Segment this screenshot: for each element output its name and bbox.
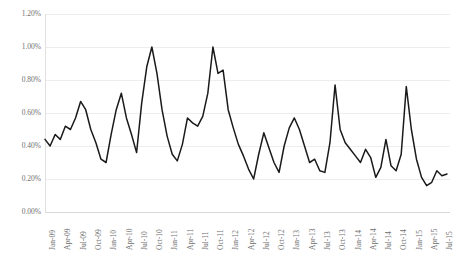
y-tick-label: 0.00% <box>22 207 41 216</box>
x-tick-label: Oct-11 <box>216 229 225 250</box>
gridlines <box>45 14 450 212</box>
x-tick-label: Jan-14 <box>354 230 363 250</box>
x-tick-label: Apr-11 <box>186 229 195 250</box>
y-tick-label: 0.80% <box>22 75 41 84</box>
x-tick-label: Jul-09 <box>79 231 88 250</box>
x-tick-label: Jan-11 <box>170 230 179 250</box>
x-tick-label: Oct-10 <box>155 229 164 250</box>
x-tick-label: Oct-12 <box>277 229 286 250</box>
y-tick-label: 0.60% <box>22 108 41 117</box>
x-tick-label: Jul-15 <box>445 231 453 250</box>
x-tick-label: Jan-09 <box>48 230 57 250</box>
x-tick-label: Apr-10 <box>125 228 134 250</box>
x-tick-label: Jan-10 <box>109 230 118 250</box>
x-tick-label: Apr-13 <box>308 228 317 250</box>
x-tick-label: Jul-10 <box>140 231 149 250</box>
x-tick-label: Jan-15 <box>415 230 424 250</box>
x-tick-label: Apr-09 <box>63 228 72 250</box>
x-tick-label: Jul-13 <box>323 231 332 250</box>
y-tick-label: 1.20% <box>22 9 41 18</box>
data-series-line <box>45 47 447 186</box>
y-tick-label: 1.00% <box>22 42 41 51</box>
x-tick-label: Apr-14 <box>369 228 378 250</box>
x-tick-label: Oct-09 <box>94 229 103 250</box>
x-tick-label: Jul-12 <box>262 231 271 250</box>
x-tick-label: Jan-12 <box>231 230 240 250</box>
x-tick-label: Oct-14 <box>399 229 408 250</box>
x-tick-label: Jan-13 <box>292 230 301 250</box>
x-tick-label: Apr-15 <box>430 228 439 250</box>
series-rate-line <box>45 47 447 186</box>
line-chart: 0.00%0.20%0.40%0.60%0.80%1.00%1.20% Jan-… <box>0 0 453 256</box>
y-tick-label: 0.20% <box>22 174 41 183</box>
x-tick-label: Apr-12 <box>247 228 256 250</box>
x-tick-label: Jul-14 <box>384 231 393 250</box>
x-tick-label: Jul-11 <box>201 232 210 250</box>
chart-plot-area <box>0 0 453 256</box>
y-tick-label: 0.40% <box>22 141 41 150</box>
x-tick-label: Oct-13 <box>338 229 347 250</box>
